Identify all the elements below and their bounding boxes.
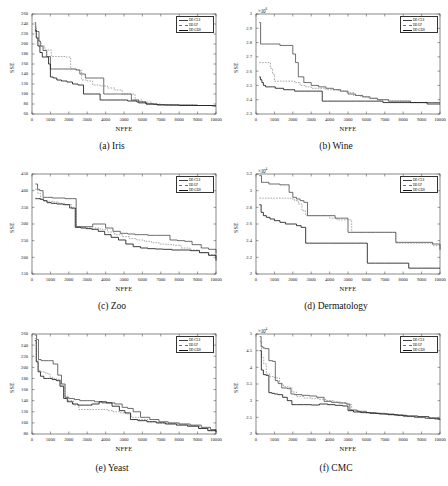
- y-tick-label: 240: [0, 21, 28, 26]
- legend-swatch-icon: [179, 345, 188, 346]
- y-tick-label: 2.8: [224, 205, 252, 210]
- legend-swatch-icon: [179, 180, 188, 181]
- y-tick-label: 2.5: [224, 415, 252, 420]
- y-tick-label: 120: [0, 81, 28, 86]
- x-axis-label: NFFE: [32, 445, 216, 452]
- y-axis-label: SSE: [233, 222, 239, 233]
- legend-swatch-icon: [179, 190, 188, 191]
- y-tick-label: 400: [0, 188, 28, 193]
- caption-wine: (b) Wine: [224, 141, 448, 151]
- legend-swatch-icon: [179, 25, 188, 26]
- legend-label: DE-GDS: [189, 348, 201, 353]
- y-tick-label: 250: [0, 238, 28, 243]
- y-tick-label: 120: [0, 409, 28, 414]
- panel-zoo: 1502002503003504004500100020003000400050…: [0, 160, 224, 320]
- plot-iris: 6080100120140160180200220240260010002000…: [0, 0, 224, 140]
- plot-yeast: 8010012014016018020022024026001000200030…: [0, 320, 224, 460]
- legend-swatch-icon: [403, 345, 412, 346]
- legend-swatch-icon: [403, 25, 412, 26]
- axis-exponent: ×104: [258, 167, 267, 174]
- panel-iris: 6080100120140160180200220240260010002000…: [0, 0, 224, 160]
- x-axis-label: NFFE: [256, 445, 440, 452]
- series-line: [259, 23, 440, 103]
- series-line: [259, 205, 440, 268]
- axis-exponent: ×106: [258, 7, 267, 14]
- y-tick-label: 200: [0, 41, 28, 46]
- y-tick-label: 220: [0, 31, 28, 36]
- legend-swatch-icon: [179, 20, 188, 21]
- y-tick-label: 2.4: [224, 97, 252, 102]
- legend-label: DE-GDS: [189, 188, 201, 193]
- y-tick-label: 2.8: [224, 40, 252, 45]
- y-tick-label: 260: [0, 331, 28, 336]
- x-axis-label: NFFE: [32, 125, 216, 132]
- panel-yeast: 8010012014016018020022024026001000200030…: [0, 320, 224, 486]
- y-tick-label: 180: [0, 376, 28, 381]
- legend-swatch-icon: [403, 350, 412, 351]
- y-axis-label: SSE: [233, 382, 239, 393]
- x-axis-label: NFFE: [32, 285, 216, 292]
- y-tick-label: 3.2: [224, 171, 252, 176]
- x-tick-label: 10000: [429, 277, 448, 282]
- plot-cmc: 22.533.544.55010002000300040005000600070…: [224, 320, 448, 460]
- chart-legend: DE-CLSDE-LFDE-GDS: [176, 176, 214, 193]
- plot-zoo: 1502002503003504004500100020003000400050…: [0, 160, 224, 300]
- caption-zoo: (c) Zoo: [0, 301, 224, 311]
- y-tick-label: 2.2: [224, 255, 252, 260]
- legend-item: DE-GDS: [401, 348, 437, 353]
- y-axis-label: SSE: [9, 222, 15, 233]
- y-tick-label: 220: [0, 354, 28, 359]
- y-axis-label: SSE: [9, 382, 15, 393]
- x-tick-label: 10000: [429, 117, 448, 122]
- legend-swatch-icon: [403, 340, 412, 341]
- y-tick-label: 200: [0, 255, 28, 260]
- legend-swatch-icon: [179, 350, 188, 351]
- y-tick-label: 3: [224, 11, 252, 16]
- y-axis-label: SSE: [9, 62, 15, 73]
- y-tick-label: 140: [0, 398, 28, 403]
- legend-swatch-icon: [403, 180, 412, 181]
- chart-legend: DE-CLSDE-LFDE-GDS: [176, 16, 214, 33]
- figure-grid: 6080100120140160180200220240260010002000…: [0, 0, 448, 486]
- panel-dermatology: 22.22.42.62.833.201000200030004000500060…: [224, 160, 448, 320]
- legend-item: DE-GDS: [401, 28, 437, 33]
- y-tick-label: 350: [0, 205, 28, 210]
- y-tick-label: 2.4: [224, 238, 252, 243]
- y-tick-label: 180: [0, 51, 28, 56]
- legend-swatch-icon: [179, 30, 188, 31]
- y-tick-label: 3: [224, 398, 252, 403]
- legend-swatch-icon: [179, 185, 188, 186]
- legend-swatch-icon: [403, 30, 412, 31]
- legend-swatch-icon: [403, 185, 412, 186]
- legend-label: DE-GDS: [413, 188, 425, 193]
- y-tick-label: 5: [224, 331, 252, 336]
- series-line: [35, 341, 216, 433]
- legend-item: DE-GDS: [177, 188, 213, 193]
- legend-item: DE-GDS: [177, 28, 213, 33]
- y-tick-label: 4.5: [224, 348, 252, 353]
- plot-wine: 2.32.42.52.62.72.82.93010002000300040005…: [224, 0, 448, 140]
- series-line: [35, 30, 216, 106]
- y-tick-label: 4: [224, 365, 252, 370]
- legend-swatch-icon: [179, 340, 188, 341]
- y-tick-label: 2.9: [224, 26, 252, 31]
- x-axis-label: NFFE: [256, 125, 440, 132]
- legend-swatch-icon: [403, 20, 412, 21]
- y-tick-label: 3: [224, 188, 252, 193]
- legend-swatch-icon: [403, 190, 412, 191]
- y-tick-label: 100: [0, 420, 28, 425]
- panel-wine: 2.32.42.52.62.72.82.93010002000300040005…: [224, 0, 448, 160]
- x-axis-label: NFFE: [256, 285, 440, 292]
- series-line: [35, 199, 216, 261]
- y-tick-label: 200: [0, 365, 28, 370]
- panel-cmc: 22.533.544.55010002000300040005000600070…: [224, 320, 448, 486]
- series-line: [259, 63, 440, 103]
- y-tick-label: 100: [0, 91, 28, 96]
- chart-legend: DE-CLSDE-LFDE-GDS: [176, 336, 214, 353]
- chart-legend: DE-CLSDE-LFDE-GDS: [400, 16, 438, 33]
- caption-iris: (a) Iris: [0, 141, 224, 151]
- x-tick-label: 10000: [429, 437, 448, 442]
- chart-legend: DE-CLSDE-LFDE-GDS: [400, 176, 438, 193]
- legend-item: DE-GDS: [401, 188, 437, 193]
- y-tick-label: 80: [0, 101, 28, 106]
